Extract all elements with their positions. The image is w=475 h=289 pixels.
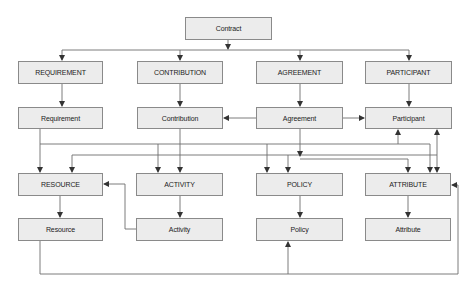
resource-class-label: Resource	[46, 226, 75, 233]
contract-label: Contract	[216, 25, 242, 32]
requirement-entity-label: REQUIREMENT	[35, 69, 86, 76]
requirement-class-label: Requirement	[41, 115, 80, 122]
requirement-class-node: Requirement	[18, 107, 103, 129]
participant-class-label: Participant	[393, 115, 425, 122]
policy-class-node: Policy	[256, 218, 343, 241]
agreement-class-node: Agreement	[256, 107, 343, 129]
resource-class-node: Resource	[18, 218, 103, 241]
agreement-class-label: Agreement	[283, 115, 316, 122]
contribution-class-node: Contribution	[137, 107, 223, 129]
policy-entity-node: POLICY	[256, 173, 343, 196]
resource-entity-node: RESOURCE	[18, 173, 103, 196]
participant-entity-label: PARTICIPANT	[386, 69, 430, 76]
attribute-entity-node: ATTRIBUTE	[365, 173, 451, 196]
requirement-entity-node: REQUIREMENT	[18, 61, 103, 84]
activity-class-node: Activity	[136, 218, 223, 241]
contribution-entity-node: CONTRIBUTION	[137, 61, 223, 84]
activity-class-label: Activity	[169, 226, 190, 233]
activity-entity-label: ACTIVITY	[164, 181, 195, 188]
policy-class-label: Policy	[290, 226, 308, 233]
contribution-class-label: Contribution	[162, 115, 199, 122]
attribute-class-label: Attribute	[395, 226, 420, 233]
participant-class-node: Participant	[365, 107, 452, 129]
agreement-entity-label: AGREEMENT	[278, 69, 321, 76]
contribution-entity-label: CONTRIBUTION	[154, 69, 206, 76]
participant-entity-node: PARTICIPANT	[365, 61, 452, 84]
attribute-class-node: Attribute	[365, 218, 451, 241]
policy-entity-label: POLICY	[287, 181, 312, 188]
agreement-entity-node: AGREEMENT	[256, 61, 343, 84]
activity-entity-node: ACTIVITY	[136, 173, 223, 196]
attribute-entity-label: ATTRIBUTE	[389, 181, 426, 188]
resource-entity-label: RESOURCE	[41, 181, 80, 188]
contract-node: Contract	[185, 17, 272, 40]
connector-lines	[0, 0, 475, 289]
